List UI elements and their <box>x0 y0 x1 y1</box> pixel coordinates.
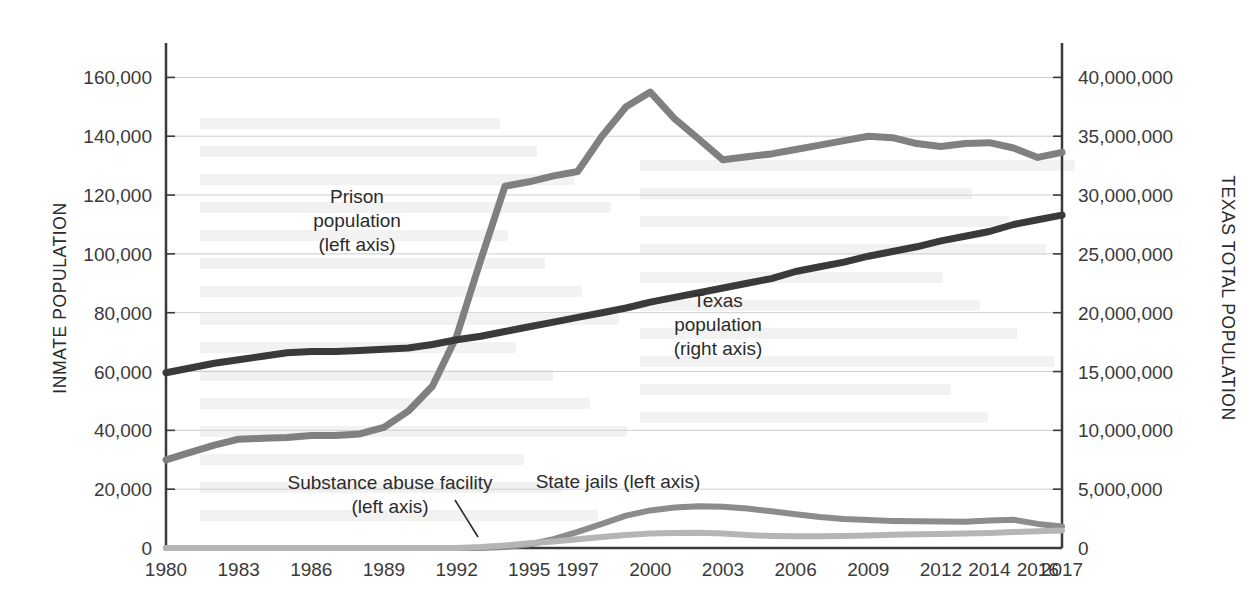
annotation-line: (left axis) <box>351 496 428 517</box>
y2-axis-tick-label: 20,000,000 <box>1078 303 1173 324</box>
annotation-line: (left axis) <box>318 234 395 255</box>
y2-axis-tick-label: 35,000,000 <box>1078 126 1173 147</box>
y-axis-tick-label: 80,000 <box>94 303 152 324</box>
bleedthrough-line <box>640 216 1009 227</box>
population-trend-chart: 020,00040,00060,00080,000100,000120,0001… <box>0 0 1248 609</box>
x-axis-tick-label: 2003 <box>702 559 744 580</box>
y2-axis-tick-label: 30,000,000 <box>1078 185 1173 206</box>
y2-axis-tick-label: 0 <box>1078 538 1089 559</box>
bleedthrough-line <box>640 412 988 423</box>
annotation-line: population <box>674 314 762 335</box>
bleedthrough-line <box>200 258 545 269</box>
x-axis-tick-label: 2009 <box>847 559 889 580</box>
y-axis-tick-label: 160,000 <box>83 67 152 88</box>
x-axis-tick-label: 2006 <box>774 559 816 580</box>
annotation-state-jails: State jails (left axis) <box>536 471 701 492</box>
annotation-line: (right axis) <box>674 338 763 359</box>
y-axis-tick-label: 0 <box>141 538 152 559</box>
x-axis-tick-label: 1995 <box>508 559 550 580</box>
bleedthrough-line <box>640 384 951 395</box>
y2-axis-tick-label: 25,000,000 <box>1078 244 1173 265</box>
y-axis-tick-label: 40,000 <box>94 420 152 441</box>
y-axis-tick-label: 140,000 <box>83 126 152 147</box>
x-axis-tick-label: 2014 <box>968 559 1011 580</box>
annotation-line: Prison <box>330 186 384 207</box>
y-axis-tick-label: 120,000 <box>83 185 152 206</box>
bleedthrough-line <box>200 454 524 465</box>
x-axis-tick-label: 1986 <box>290 559 332 580</box>
y2-axis-tick-label: 40,000,000 <box>1078 67 1173 88</box>
y-axis-tick-label: 60,000 <box>94 362 152 383</box>
bleedthrough-line <box>200 286 582 297</box>
x-axis-tick-label: 1997 <box>557 559 599 580</box>
x-axis-tick-label: 1989 <box>363 559 405 580</box>
chart-canvas: 020,00040,00060,00080,000100,000120,0001… <box>0 0 1248 609</box>
bleedthrough-line <box>640 160 1075 171</box>
x-axis-tick-label: 2012 <box>920 559 962 580</box>
bleedthrough-line <box>640 300 980 311</box>
annotation-line: State jails (left axis) <box>536 471 701 492</box>
x-axis-tick-label: 1983 <box>218 559 260 580</box>
bleedthrough-line <box>200 398 590 409</box>
annotation-line: population <box>313 210 401 231</box>
x-axis-tick-label: 2000 <box>629 559 671 580</box>
bleedthrough-line <box>200 202 611 213</box>
y-axis-title: INMATE POPULATION <box>50 202 70 393</box>
y2-axis-tick-label: 5,000,000 <box>1078 479 1163 500</box>
y-axis-tick-label: 20,000 <box>94 479 152 500</box>
x-axis-tick-label: 1980 <box>145 559 187 580</box>
y2-axis-title: TEXAS TOTAL POPULATION <box>1218 175 1238 421</box>
x-axis-tick-label: 1992 <box>435 559 477 580</box>
x-axis-tick-label: 2017 <box>1041 559 1083 580</box>
y-axis-tick-label: 100,000 <box>83 244 152 265</box>
annotation-line: Substance abuse facility <box>288 472 493 493</box>
bleedthrough-line <box>640 188 972 199</box>
y2-axis-tick-label: 15,000,000 <box>1078 362 1173 383</box>
annotation-line: Texas <box>693 290 743 311</box>
bleedthrough-line <box>200 118 500 129</box>
bleedthrough-line <box>640 244 1046 255</box>
bleedthrough-line <box>200 146 537 157</box>
y2-axis-tick-label: 10,000,000 <box>1078 420 1173 441</box>
